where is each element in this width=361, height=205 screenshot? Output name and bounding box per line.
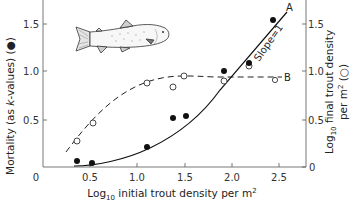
x-ticks: 0 0.5 1.0 1.5 2.0 2.5 — [33, 163, 287, 183]
trout-illustration — [76, 20, 169, 53]
data-point-open — [144, 80, 150, 86]
x-tick-label: 1.0 — [129, 172, 145, 183]
x-tick-label: 2.0 — [224, 172, 240, 183]
chart: 0 0.5 1.0 1.5 2.0 2.5 0.5 1.0 1.5 0 0.5 … — [0, 0, 361, 205]
data-point-filled — [144, 144, 150, 150]
x-tick-label: 0.5 — [82, 172, 98, 183]
data-point-open — [90, 120, 96, 126]
data-point-filled — [221, 68, 227, 74]
slope-annotation: Slope=1 — [252, 22, 285, 63]
data-point-filled — [74, 158, 80, 164]
data-point-filled — [89, 160, 95, 166]
data-point-filled — [170, 115, 176, 121]
data-point-filled — [183, 113, 189, 119]
y-axis-right-title-line1: Log10 final trout density — [323, 30, 338, 154]
data-point-open — [74, 138, 80, 144]
open-circle-points — [74, 63, 278, 144]
y-axis-left-title: Mortality (as k-values) (●) — [4, 37, 16, 175]
y-right-tick-label: 0.5 — [308, 115, 324, 126]
data-point-open — [170, 84, 176, 90]
y-left-tick-label: 1.0 — [23, 66, 39, 77]
y-ticks-right: 0 0.5 1.0 1.5 — [302, 19, 324, 173]
data-point-open — [181, 73, 187, 79]
y-left-tick-label: 1.5 — [23, 19, 39, 30]
x-tick-label: 2.5 — [271, 172, 287, 183]
data-point-filled — [246, 60, 252, 66]
y-left-tick-label: 0.5 — [23, 115, 39, 126]
data-point-open — [272, 77, 277, 82]
label-a: A — [286, 2, 293, 13]
x-tick-label: 0 — [33, 172, 39, 183]
y-axis-right-title-line2: per m2 (○) — [337, 64, 349, 120]
x-tick-label: 1.5 — [177, 172, 193, 183]
y-right-tick-label: 0 — [309, 162, 315, 173]
y-ticks-left: 0.5 1.0 1.5 — [23, 19, 47, 126]
x-axis-title: Log10 initial trout density per m2 — [87, 187, 256, 202]
axes — [43, 0, 306, 167]
label-b: B — [284, 72, 291, 83]
y-right-tick-label: 1.0 — [308, 66, 324, 77]
data-point-open — [221, 78, 227, 84]
y-right-tick-label: 1.5 — [308, 19, 324, 30]
